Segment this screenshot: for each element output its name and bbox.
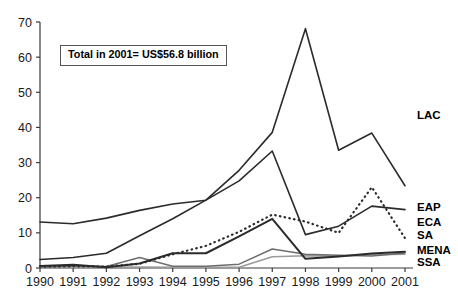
total-annotation-box: Total in 2001= US$56.8 billion [60,45,227,66]
y-tick-label: 0 [25,262,32,276]
series-line-eca [40,219,405,267]
x-tick-label: 1996 [225,275,253,289]
x-tick-label: 2000 [358,275,386,289]
x-tick-label: 1995 [192,275,220,289]
series-label-eap: EAP [417,201,441,213]
y-tick-label: 60 [18,51,32,65]
series-label-ssa: SSA [417,256,441,268]
series-line-eap [40,151,405,260]
x-tick-label: 1994 [159,275,187,289]
y-tick-label: 70 [18,16,32,30]
series-label-eca: ECA [417,216,441,228]
x-tick-label: 1991 [59,275,87,289]
series-line-mena [40,249,405,267]
y-tick-label: 50 [18,86,32,100]
x-tick-label: 1992 [92,275,120,289]
x-tick-label: 1999 [325,275,353,289]
series-label-mena: MENA [417,244,451,256]
y-tick-label: 10 [18,226,32,240]
y-tick-label: 30 [18,156,32,170]
series-label-sa: SA [417,229,433,241]
x-tick-label: 1990 [26,275,54,289]
x-tick-label: 1993 [126,275,154,289]
y-tick-label: 20 [18,191,32,205]
chart-container: 0102030405060701990199119921993199419951… [0,0,458,299]
x-tick-label: 2001 [391,275,419,289]
x-tick-label: 1997 [258,275,286,289]
y-tick-label: 40 [18,121,32,135]
x-tick-label: 1998 [292,275,320,289]
series-label-lac: LAC [417,109,441,121]
